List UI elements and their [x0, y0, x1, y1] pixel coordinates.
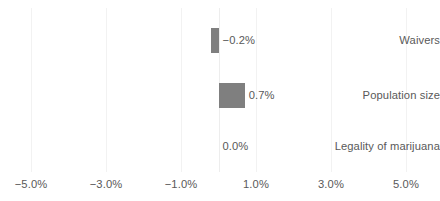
bar-row: Waivers−0.2%: [0, 25, 440, 55]
bar-row: Population size0.7%: [0, 80, 440, 110]
bar-value-label: 0.0%: [223, 131, 249, 161]
category-label: Legality of marijuana: [234, 131, 440, 161]
x-tick-label: −1.0%: [165, 178, 198, 190]
bar-chart: Waivers−0.2%Population size0.7%Legality …: [0, 0, 440, 201]
bar: [219, 83, 245, 108]
bar-value-label: −0.2%: [223, 25, 256, 55]
x-tick-label: 1.0%: [243, 178, 269, 190]
x-tick-label: −3.0%: [90, 178, 123, 190]
bar-value-label: 0.7%: [249, 80, 275, 110]
category-label: Waivers: [234, 25, 440, 55]
bar: [211, 28, 219, 53]
x-tick-label: 3.0%: [318, 178, 344, 190]
plot-area: Waivers−0.2%Population size0.7%Legality …: [0, 0, 440, 172]
bar-row: Legality of marijuana0.0%: [0, 131, 440, 161]
x-tick-label: −5.0%: [15, 178, 48, 190]
x-tick-label: 5.0%: [393, 178, 419, 190]
x-axis: −5.0%−3.0%−1.0%1.0%3.0%5.0%: [0, 172, 440, 201]
